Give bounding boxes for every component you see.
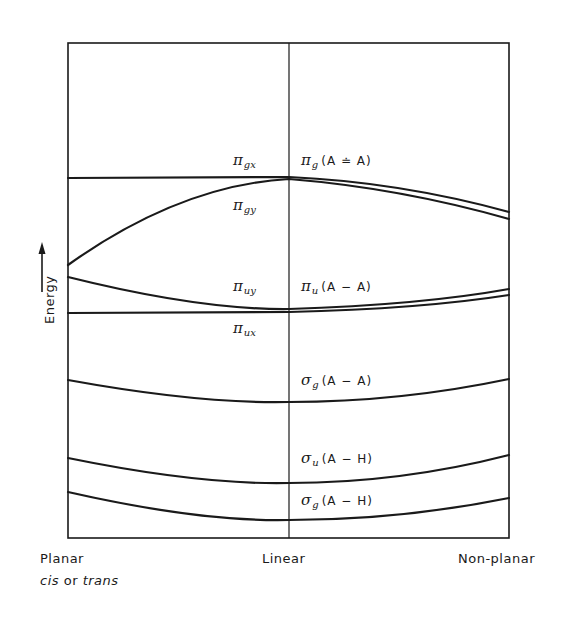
- x-label-linear: Linear: [262, 551, 305, 566]
- label-pi-gx: πgx: [233, 151, 256, 170]
- label-pi-gy: πgy: [233, 196, 256, 215]
- label-sigma-u-AH: σu(A − H): [301, 449, 373, 468]
- y-axis-label: Energy: [42, 275, 57, 324]
- x-label-cis-or-trans: cis or trans: [40, 573, 119, 588]
- label-pi-uy: πuy: [233, 277, 256, 296]
- label-sigma-g-AA: σg(A − A): [301, 371, 372, 390]
- x-label-non-planar: Non-planar: [458, 551, 535, 566]
- label-sigma-g-AH: σg(A − H): [301, 491, 373, 510]
- correlation-diagram: [0, 0, 578, 625]
- x-label-planar: Planar: [40, 551, 84, 566]
- label-pi-g-AA: πg(A ≐ A): [301, 151, 372, 170]
- label-pi-ux: πux: [233, 319, 256, 338]
- label-pi-u-AA: πu(A − A): [301, 277, 372, 296]
